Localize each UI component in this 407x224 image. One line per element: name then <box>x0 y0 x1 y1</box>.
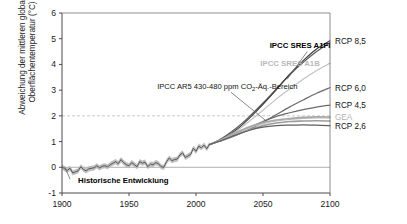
right-label-gea: GEA <box>335 113 353 122</box>
historical-label: Historische Entwicklung <box>78 176 169 185</box>
series-line-ipcc-ar5-430-480-ppm-co2-q-bereich-lower <box>209 121 330 145</box>
reference-lines <box>62 116 330 167</box>
y-tick-label: 6 <box>51 8 56 18</box>
x-tick-label: 2050 <box>253 199 272 209</box>
climate-projection-chart: Abweichung der mittleren globalen Oberfl… <box>0 0 407 224</box>
x-tick-labels: 19001950200020502100 <box>52 193 339 209</box>
x-tick-label: 2100 <box>320 199 339 209</box>
x-tick-label: 1900 <box>52 199 71 209</box>
y-tick-label: 5 <box>51 34 56 44</box>
y-tick-label: 1 <box>51 137 56 147</box>
series-line-ipcc-sres-a1fi <box>209 41 330 145</box>
right-label-rcp85: RCP 8,5 <box>335 37 366 46</box>
sres-a1b-label: IPCC SRES A1B <box>260 59 320 68</box>
x-tick-label: 1950 <box>119 199 138 209</box>
y-tick-label: -1 <box>48 188 56 198</box>
y-tick-label: 4 <box>51 59 56 69</box>
y-tick-labels: -10123456 <box>48 8 62 198</box>
y-tick-label: 0 <box>51 162 56 172</box>
ar5-range-label: IPCC AR5 430-480 ppm CO2-Äq.-Bereich <box>157 82 297 92</box>
sres-a1fi-label: IPCC SRES A1FI <box>270 41 331 50</box>
right-label-rcp60: RCP 6,0 <box>335 84 366 93</box>
series-bands <box>62 142 209 175</box>
plot-svg: -10123456 19001950200020502100 Historisc… <box>0 0 407 224</box>
right-series-labels: RCP 8,5RCP 6,0RCP 4,5GEARCP 2,6 <box>335 37 366 131</box>
series-line-ipcc-sres-a1b <box>209 63 330 145</box>
historical-uncertainty-band <box>62 142 209 175</box>
right-label-rcp45: RCP 4,5 <box>335 101 366 110</box>
right-label-rcp26: RCP 2,6 <box>335 122 366 131</box>
y-tick-label: 3 <box>51 85 56 95</box>
y-tick-label: 2 <box>51 111 56 121</box>
x-tick-label: 2000 <box>186 199 205 209</box>
